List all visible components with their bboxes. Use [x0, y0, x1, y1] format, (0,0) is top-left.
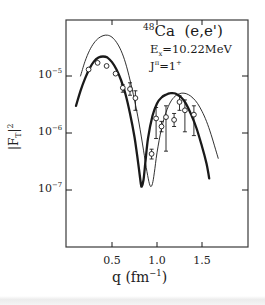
data-point [86, 67, 91, 72]
excitation-energy-label: Ex=10.22MeV [150, 42, 232, 58]
data-points [86, 60, 196, 159]
x-tick-label: 1.0 [148, 254, 166, 267]
data-marker [192, 112, 197, 117]
data-marker [149, 151, 154, 156]
data-point [95, 60, 100, 65]
spin-parity-label: Jπ=1+ [150, 59, 182, 73]
data-marker [133, 96, 138, 101]
data-marker [172, 117, 177, 122]
data-point [164, 106, 169, 151]
data-point [104, 64, 109, 69]
x-tick-label: 1.5 [193, 254, 211, 267]
data-point [113, 71, 118, 76]
chart-title: 48Ca (e,e') [143, 22, 223, 40]
y-tick-label: 10−7 [38, 181, 62, 195]
y-tick-label: 10−6 [38, 124, 62, 138]
data-marker [86, 67, 91, 72]
data-point [149, 149, 154, 159]
data-marker [164, 115, 169, 120]
scan-edge [0, 296, 265, 305]
data-point [172, 113, 177, 126]
data-marker [113, 71, 118, 76]
data-marker [183, 108, 188, 113]
data-marker [120, 85, 125, 90]
data-marker [128, 87, 133, 92]
data-point [128, 83, 133, 95]
data-marker [154, 116, 159, 121]
x-axis-label: q (fm−1) [112, 268, 167, 285]
x-tick-label: 0.5 [103, 254, 121, 267]
data-marker [159, 124, 164, 129]
thick-curve [76, 57, 209, 187]
data-marker [177, 100, 182, 105]
data-point [133, 91, 138, 111]
y-axis-label: |FT|2 [6, 123, 23, 150]
data-point [192, 106, 197, 136]
y-tick-label: 10−5 [38, 67, 62, 81]
data-marker [95, 60, 100, 65]
data-marker [104, 64, 109, 69]
